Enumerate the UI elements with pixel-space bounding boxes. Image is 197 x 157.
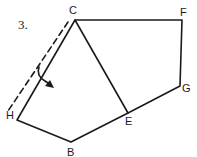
polygon-outline — [17, 20, 182, 142]
diagonal-c-e — [75, 20, 128, 113]
vertex-label-e: E — [125, 116, 132, 127]
vertex-label-b: B — [67, 147, 74, 157]
problem-number: 3. — [18, 18, 28, 31]
polygon-figure — [0, 0, 197, 157]
vertex-label-g: G — [182, 83, 191, 94]
vertex-label-h: H — [6, 110, 14, 121]
vertex-label-f: F — [180, 7, 187, 18]
vertex-label-c: C — [69, 5, 77, 16]
fold-line-dashed — [8, 22, 68, 111]
